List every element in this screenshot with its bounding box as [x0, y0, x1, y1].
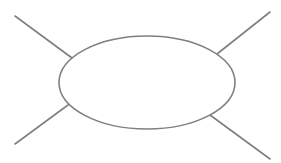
center-ellipse — [59, 36, 235, 129]
spider-diagram — [0, 0, 281, 163]
